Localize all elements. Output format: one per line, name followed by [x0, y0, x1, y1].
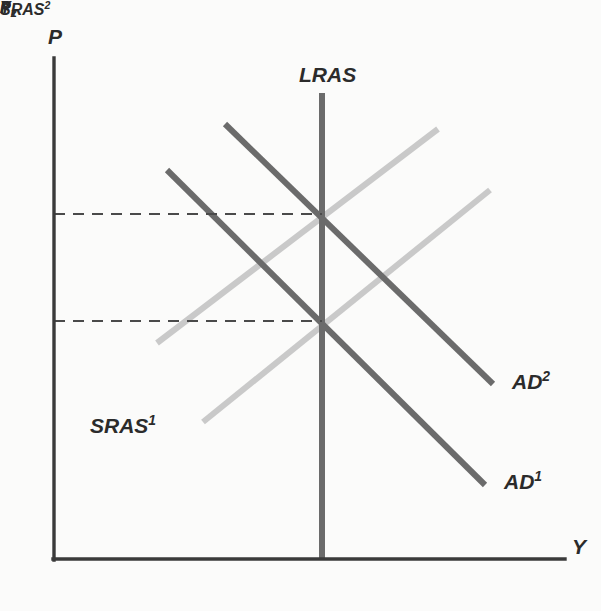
curve-label-sras1-base: SRAS — [90, 414, 148, 437]
curve-label-sras1: SRAS1 — [90, 414, 156, 436]
curve-ad2 — [225, 124, 493, 384]
curve-label-sras2-superscript: 2 — [44, 0, 50, 11]
curve-label-ad1-base: AD — [504, 470, 534, 493]
curve-label-ad1: AD1 — [504, 470, 542, 492]
curve-label-ad2: AD2 — [512, 370, 550, 392]
curve-label-lras-base: LRAS — [299, 63, 356, 86]
curve-label-lras: LRAS — [299, 64, 356, 85]
x-axis-label: Y — [572, 536, 586, 557]
curve-label-sras1-superscript: 1 — [148, 412, 156, 428]
curve-sras1 — [203, 190, 490, 422]
curve-label-sras2: SRAS2 — [0, 0, 50, 18]
asad-diagram-canvas — [0, 0, 601, 611]
curve-sras2 — [157, 129, 438, 343]
curve-label-sras2-base: SRAS — [0, 1, 44, 18]
y-axis-label: P — [48, 26, 62, 47]
curve-label-ad2-base: AD — [512, 370, 542, 393]
curve-label-ad2-superscript: 2 — [542, 368, 550, 384]
asad-diagram-figure: P Y P2 P1 Y LRAS AD1 AD2 SRAS1 SRAS2 — [0, 0, 601, 611]
curve-label-ad1-superscript: 1 — [534, 468, 542, 484]
